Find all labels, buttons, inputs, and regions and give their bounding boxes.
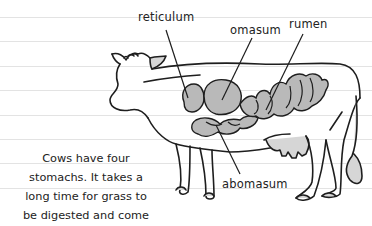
rumen-organ	[240, 74, 328, 119]
caption-line: out the other end.	[14, 225, 158, 226]
label-omasum: omasum	[230, 23, 281, 37]
abomasum-organ	[192, 116, 258, 136]
cow-udder	[266, 136, 309, 158]
notebook-page: reticulum omasum rumen abomasum Cows hav…	[0, 0, 372, 226]
cow-front-leg-2	[200, 148, 214, 199]
label-reticulum: reticulum	[138, 10, 194, 24]
caption-text: Cows have four stomachs. It takes a long…	[14, 149, 158, 226]
cow-head	[110, 53, 166, 118]
caption-line: long time for grass to	[14, 187, 158, 206]
label-rumen: rumen	[289, 17, 328, 31]
reticulum-organ	[183, 84, 204, 112]
caption-line: Cows have four	[14, 149, 158, 168]
label-abomasum: abomasum	[222, 177, 288, 191]
caption-line: be digested and come	[14, 206, 158, 225]
omasum-organ	[204, 80, 241, 115]
caption-line: stomachs. It takes a	[14, 168, 158, 187]
